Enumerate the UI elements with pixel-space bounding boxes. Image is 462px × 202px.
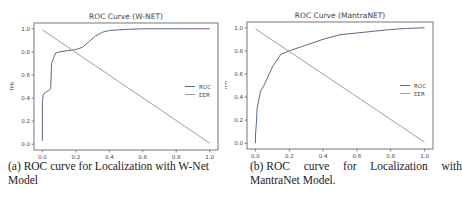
y-tick-label: 0.6 [21, 72, 30, 78]
caption-b-word: Localization [370, 159, 427, 173]
caption-a: (a) ROC curve for Localization with W-Ne… [8, 159, 213, 187]
caption-b-word: (b) ROC [250, 159, 290, 173]
figure-a: ROC Curve (W-NET)0.00.20.40.60.81.00.00.… [0, 0, 225, 202]
y-tick-label: 0.0 [21, 141, 30, 147]
series-line-eer [256, 29, 425, 142]
caption-b-line2: MantraNet Model. [250, 173, 462, 187]
chart-title: ROC Curve (MantraNET) [295, 11, 386, 20]
caption-b-word: for [343, 159, 356, 173]
y-tick-label: 0.2 [234, 117, 243, 123]
y-tick-label: 0.0 [234, 140, 243, 146]
figure-b: ROC Curve (MantraNET)0.00.20.40.60.81.00… [225, 0, 449, 202]
y-axis-label: TPR [9, 81, 15, 92]
caption-a-line2: Model [8, 173, 213, 187]
y-tick-label: 0.6 [234, 71, 243, 77]
roc-chart-wnet: ROC Curve (W-NET)0.00.20.40.60.81.00.00.… [0, 0, 225, 160]
y-tick-label: 0.4 [234, 94, 243, 100]
caption-b-word: curve [304, 159, 330, 173]
caption-b: (b) ROC curve for Localization with Mant… [250, 159, 462, 187]
legend-label: EER [414, 91, 425, 97]
legend-label: ROC [414, 83, 426, 89]
y-tick-label: 0.4 [21, 95, 30, 101]
legend-label: ROC [199, 84, 211, 90]
caption-b-line1: (b) ROC curve for Localization with [250, 159, 462, 173]
y-tick-label: 0.2 [21, 118, 30, 124]
y-axis-label: TPR [225, 80, 228, 91]
y-tick-label: 0.8 [234, 48, 243, 54]
y-tick-label: 1.0 [234, 25, 243, 31]
y-tick-label: 0.8 [21, 49, 30, 55]
caption-b-word: with [442, 159, 462, 173]
roc-chart-mantranet: ROC Curve (MantraNET)0.00.20.40.60.81.00… [225, 0, 449, 160]
chart-title: ROC Curve (W-NET) [89, 12, 163, 21]
legend-label: EER [199, 92, 210, 98]
y-tick-label: 1.0 [21, 26, 30, 32]
series-line-roc [42, 29, 209, 141]
caption-a-line1: (a) ROC curve for Localization with W-Ne… [8, 159, 213, 173]
series-line-eer [42, 30, 209, 143]
